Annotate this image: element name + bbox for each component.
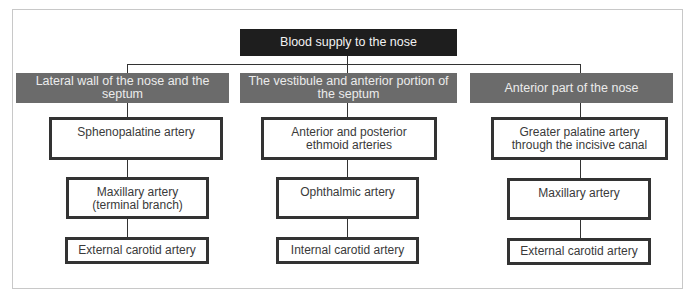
category-vestibule: The vestibule and anterior portion of th… [240,73,457,103]
node-ethmoid-arteries: Anterior and posterior ethmoid arteries [261,117,437,160]
connector-horizontal [127,64,581,65]
node-external-carotid-artery-2: External carotid artery [507,238,651,265]
category-label: Lateral wall of the nose and the septum [22,75,223,101]
connector-col3-cat [580,64,581,73]
connector-col1-cat [127,64,128,73]
node-internal-carotid-artery: Internal carotid artery [276,237,419,264]
root-label: Blood supply to the nose [280,36,417,49]
category-anterior-part: Anterior part of the nose [470,73,673,103]
connector-root-down [347,56,348,64]
category-label: The vestibule and anterior portion of th… [246,75,451,101]
node-label: Internal carotid artery [291,244,404,257]
node-maxillary-artery-terminal: Maxillary artery (terminal branch) [66,177,209,219]
node-ophthalmic-artery: Ophthalmic artery [276,177,419,219]
node-label: Maxillary artery [538,187,619,200]
category-lateral-wall: Lateral wall of the nose and the septum [16,73,229,103]
node-label: Maxillary artery (terminal branch) [92,186,183,212]
connector-col3-l1 [580,102,581,117]
node-maxillary-artery: Maxillary artery [507,178,651,220]
connector-col1-l3 [127,219,128,237]
node-label: External carotid artery [520,245,637,258]
node-sphenopalatine-artery: Sphenopalatine artery [49,117,223,160]
connector-col2-l3 [347,219,348,237]
connector-col1-l1 [127,102,128,117]
node-external-carotid-artery: External carotid artery [65,237,209,264]
node-label: External carotid artery [78,244,195,257]
node-label: Anterior and posterior ethmoid arteries [291,126,406,152]
connector-col2-l2 [347,160,348,177]
node-label: Ophthalmic artery [300,186,395,199]
category-label: Anterior part of the nose [504,82,638,95]
node-label: Sphenopalatine artery [77,126,194,139]
root-node: Blood supply to the nose [240,29,457,56]
connector-col2-l1 [347,102,348,117]
connector-col3-l3 [580,220,581,238]
node-label: Greater palatine artery through the inci… [512,126,647,152]
node-greater-palatine-artery: Greater palatine artery through the inci… [491,117,668,160]
connector-col1-l2 [127,160,128,177]
connector-col2-cat [347,64,348,73]
connector-col3-l2 [580,160,581,178]
